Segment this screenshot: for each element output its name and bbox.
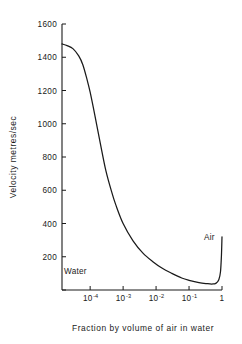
svg-text:-4: -4 <box>93 293 98 299</box>
svg-text:-3: -3 <box>126 293 131 299</box>
figure-root: 2004006008001000120014001600 10-410-310-… <box>0 0 242 344</box>
plot-annotations: WaterAir <box>64 233 215 276</box>
y-tick-label: 1400 <box>38 53 58 62</box>
y-tick-label: 1200 <box>38 87 58 96</box>
x-tick-label: 10-4 <box>83 293 98 304</box>
plot-annotation-label: Water <box>64 267 87 276</box>
y-tick-label: 1000 <box>38 120 58 129</box>
y-axis-tick-labels: 2004006008001000120014001600 <box>38 20 58 262</box>
svg-text:10: 10 <box>182 294 192 303</box>
svg-text:1: 1 <box>220 294 225 303</box>
y-tick-label: 800 <box>42 153 57 162</box>
plot-annotation-label: Air <box>204 233 215 242</box>
svg-text:10: 10 <box>149 294 159 303</box>
y-tick-label: 1600 <box>38 20 58 29</box>
velocity-curve <box>62 44 222 284</box>
svg-text:-2: -2 <box>159 293 164 299</box>
y-axis-ticks <box>62 24 66 290</box>
x-axis-tick-labels: 10-410-310-210-11 <box>83 293 225 304</box>
x-axis-ticks <box>90 286 222 290</box>
x-tick-label: 10-2 <box>149 293 164 304</box>
x-tick-label: 10-3 <box>116 293 131 304</box>
svg-text:10: 10 <box>83 294 93 303</box>
y-tick-label: 600 <box>42 186 57 195</box>
y-tick-label: 400 <box>42 220 57 229</box>
y-axis-title: Velocity metres/sec <box>8 116 18 199</box>
x-tick-label: 1 <box>220 294 225 303</box>
line-chart: 2004006008001000120014001600 10-410-310-… <box>0 0 242 344</box>
x-axis-title: Fraction by volume of air in water <box>72 323 214 333</box>
y-tick-label: 200 <box>42 253 57 262</box>
svg-text:10: 10 <box>116 294 126 303</box>
x-tick-label: 10-1 <box>182 293 197 304</box>
svg-text:-1: -1 <box>192 293 197 299</box>
